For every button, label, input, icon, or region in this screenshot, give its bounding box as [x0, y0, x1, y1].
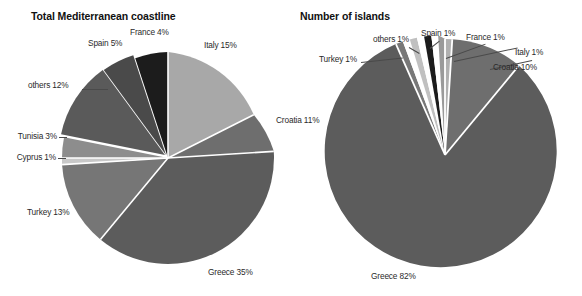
leader-line-cyprus-coastline [58, 158, 66, 159]
pie-chart-figure: Total Mediterranean coastline [0, 0, 582, 296]
label-greece-coastline: Greece 35% [208, 268, 253, 276]
label-cyprus-coastline: Cyprus 1% [0, 153, 56, 161]
leader-line-others-coastline [82, 89, 108, 90]
label-greece-islands: Greece 82% [371, 272, 416, 280]
leader-line-tunisia-coastline [59, 137, 67, 138]
pie-islands [291, 0, 582, 296]
label-spain-coastline: Spain 5% [88, 39, 122, 47]
label-italy-coastline: Italy 15% [204, 41, 237, 49]
label-turkey-islands: Turkey 1% [291, 55, 357, 63]
label-croatia-islands: Croatia 10% [493, 63, 537, 71]
label-tunisia-coastline: Tunisia 3% [0, 132, 57, 140]
label-france-coastline: France 4% [130, 28, 169, 36]
label-others-islands: others 1% [331, 35, 409, 43]
label-others-coastline: others 12% [28, 81, 68, 89]
pie-coastline [0, 0, 291, 296]
panel-total-mediterranean-coastline: Total Mediterranean coastline [0, 0, 291, 296]
label-spain-islands: Spain 1% [421, 29, 455, 37]
label-turkey-coastline: Turkey 13% [27, 208, 69, 216]
label-france-islands: France 1% [466, 33, 505, 41]
label-italy-islands: Italy 1% [515, 48, 543, 56]
panel-number-of-islands: Number of islands [291, 0, 582, 296]
